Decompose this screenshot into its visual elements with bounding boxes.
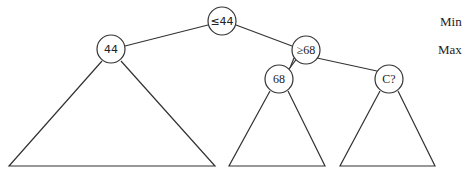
level-label-min: Min [440, 14, 462, 30]
minimax-tree-diagram: ≤44 44 ≥68 68 C? [0, 0, 469, 176]
subtree-triangle-rightleft [229, 91, 325, 166]
node-right-right: C? [375, 65, 403, 93]
node-right-left-label: 68 [273, 72, 285, 86]
node-left-label: 44 [104, 43, 118, 56]
node-right-right-label: C? [382, 72, 395, 86]
edge-root-left [125, 25, 208, 46]
node-left: 44 [97, 35, 125, 63]
edge-right-rightright [317, 58, 377, 71]
node-right-left: 68 [265, 65, 293, 93]
level-label-max: Max [438, 42, 462, 58]
node-root: ≤44 [208, 7, 236, 35]
node-right: ≥68 [292, 36, 320, 64]
subtree-triangle-left [9, 61, 215, 166]
edge-root-right [236, 25, 292, 46]
subtree-triangle-rightright [340, 91, 435, 166]
node-right-label: ≥68 [297, 43, 316, 57]
node-root-label: ≤44 [210, 15, 233, 28]
